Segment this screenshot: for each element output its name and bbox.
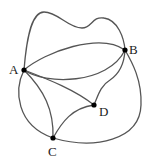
- label-b: B: [129, 42, 138, 57]
- vertex-c: [50, 135, 55, 140]
- vertex-d: [91, 102, 96, 107]
- edge-a-b-upper: [24, 43, 125, 70]
- label-d: D: [99, 104, 108, 119]
- edge-a-b-lower: [24, 50, 125, 80]
- label-c: C: [48, 144, 57, 159]
- label-a: A: [9, 62, 19, 77]
- edge-c-d: [53, 105, 94, 138]
- vertex-a: [21, 67, 26, 72]
- vertex-b: [122, 47, 127, 52]
- edge-a-b-top-loop: [24, 12, 125, 70]
- graph-diagram: A B C D: [0, 0, 148, 162]
